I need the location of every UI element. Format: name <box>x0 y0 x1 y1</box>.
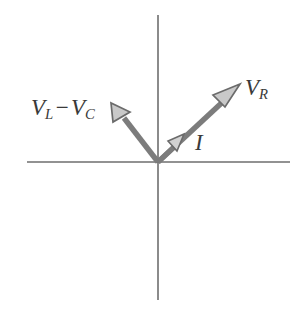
label-minus-operator: − <box>53 95 71 120</box>
vector-i-shaft <box>158 146 175 162</box>
label-vr: VR <box>245 76 268 99</box>
label-vl-v: V <box>31 95 45 120</box>
vector-i <box>158 134 184 162</box>
vector-vl-minus-vc <box>111 103 158 162</box>
label-i: I <box>195 131 203 154</box>
phasor-diagram-canvas <box>0 0 302 321</box>
label-vr-subscript: R <box>259 86 268 102</box>
label-vc-v: V <box>71 95 85 120</box>
vector-vl-minus-vc-shaft <box>124 118 158 162</box>
label-vr-v: V <box>245 75 259 100</box>
label-i-text: I <box>195 130 203 155</box>
label-vl-subscript: L <box>45 106 53 122</box>
label-vl-minus-vc: VL−VC <box>31 96 95 119</box>
label-vc-subscript: C <box>85 106 95 122</box>
phasor-diagram-figure: VL−VC VR I <box>0 0 302 321</box>
axes-group <box>27 15 290 300</box>
